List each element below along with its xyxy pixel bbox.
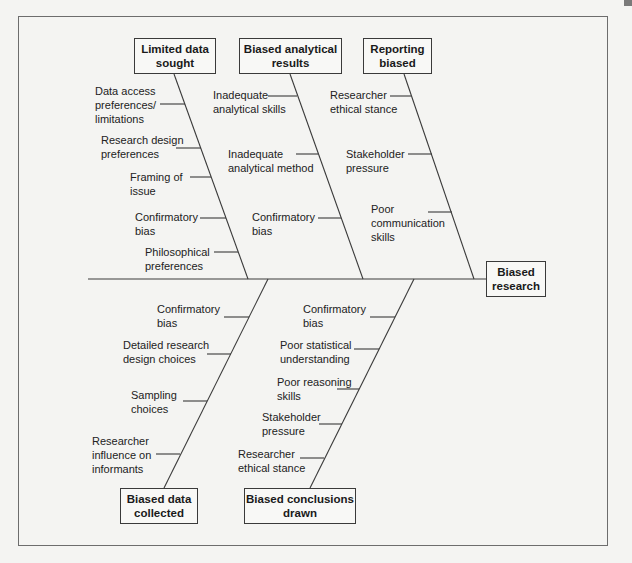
cause-label: Confirmatory bias — [157, 302, 220, 330]
cause-label: Researcher ethical stance — [330, 88, 397, 116]
cause-label: Confirmatory bias — [252, 210, 315, 238]
cause-label: Research design preferences — [101, 133, 184, 161]
cause-label: Inadequate analytical method — [228, 147, 314, 175]
cause-label: Data access preferences/ limitations — [95, 84, 156, 126]
cause-label: Philosophical preferences — [145, 245, 210, 273]
cause-label: Confirmatory bias — [303, 302, 366, 330]
effect-box-biased-research: Biased research — [486, 261, 546, 297]
category-box-biased-conclusions-drawn: Biased conclusions drawn — [244, 488, 356, 524]
category-box-limited-data-sought: Limited data sought — [134, 38, 216, 74]
bone-reporting-biased — [404, 74, 474, 279]
category-box-biased-data-collected: Biased data collected — [120, 488, 198, 524]
cause-label: Inadequate analytical skills — [213, 88, 286, 116]
cause-label: Stakeholder pressure — [262, 410, 321, 438]
cause-label: Poor reasoning skills — [277, 375, 352, 403]
cause-label: Framing of issue — [130, 170, 183, 198]
category-box-reporting-biased: Reporting biased — [363, 38, 432, 74]
cause-label: Researcher ethical stance — [238, 447, 305, 475]
cause-label: Confirmatory bias — [135, 210, 198, 238]
cause-label: Sampling choices — [131, 388, 177, 416]
cause-label: Detailed research design choices — [123, 338, 209, 366]
cause-label: Poor communication skills — [371, 202, 445, 244]
cause-label: Poor statistical understanding — [280, 338, 352, 366]
cause-label: Researcher influence on informants — [92, 434, 151, 476]
cause-label: Stakeholder pressure — [346, 147, 405, 175]
category-box-biased-analytical-results: Biased analytical results — [239, 38, 342, 74]
